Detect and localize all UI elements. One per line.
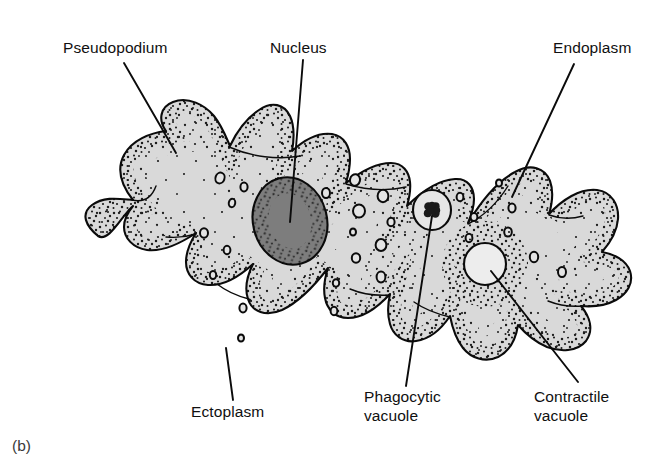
small-vacuole — [508, 204, 515, 213]
small-vacuole — [210, 271, 216, 279]
leader-line-ectoplasm — [226, 348, 233, 400]
small-vacuole — [240, 183, 247, 192]
label-phagocytic-vacuole: Phagocyticvacuole — [364, 388, 441, 424]
label-line: Nucleus — [270, 39, 327, 56]
small-vacuole — [530, 252, 538, 262]
small-vacuole — [228, 198, 236, 207]
label-line: Endoplasm — [553, 39, 631, 56]
label-ectoplasm: Ectoplasm — [191, 403, 264, 420]
small-vacuole — [239, 304, 246, 313]
label-line: Phagocytic — [364, 388, 441, 405]
label-line: Contractile — [534, 388, 609, 405]
amoeba-figure: PseudopodiumNucleusEndoplasmEctoplasmPha… — [0, 0, 660, 475]
label-line: Ectoplasm — [191, 403, 264, 420]
label-contractile-vacuole: Contractilevacuole — [534, 388, 609, 424]
figure-caption: (b) — [12, 437, 31, 454]
small-vacuole — [457, 193, 464, 201]
crease-bottom-left — [217, 284, 249, 299]
label-line: vacuole — [534, 407, 588, 424]
small-vacuole — [352, 253, 360, 263]
small-vacuole — [496, 179, 502, 186]
small-vacuole — [558, 267, 566, 277]
small-vacuole — [238, 334, 244, 341]
contractile-vacuole-disc — [464, 243, 506, 285]
amoeba-diagram-canvas: PseudopodiumNucleusEndoplasmEctoplasmPha… — [0, 0, 660, 475]
small-vacuole — [353, 204, 365, 217]
contractile-vacuole — [453, 232, 517, 296]
small-vacuole — [333, 279, 339, 287]
small-vacuole — [224, 246, 231, 254]
small-vacuole — [387, 218, 394, 226]
small-vacuole — [200, 228, 208, 238]
small-vacuole — [471, 213, 478, 221]
small-vacuole — [350, 228, 356, 235]
small-vacuole — [377, 272, 386, 283]
small-vacuole — [331, 307, 338, 315]
label-nucleus: Nucleus — [270, 39, 327, 56]
small-vacuole — [322, 188, 330, 198]
label-pseudopodium: Pseudopodium — [63, 39, 168, 56]
small-vacuole — [376, 239, 387, 251]
phagocytic-vacuole — [413, 190, 451, 230]
label-endoplasm: Endoplasm — [553, 39, 631, 56]
label-line: Pseudopodium — [63, 39, 168, 56]
label-line: vacuole — [364, 407, 418, 424]
small-vacuole — [378, 190, 389, 202]
